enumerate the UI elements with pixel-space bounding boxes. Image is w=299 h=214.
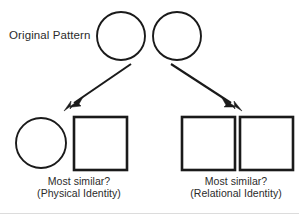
physical-identity-caption: Most similar? (Physical Identity) (14, 175, 144, 199)
choice-left-circle (16, 118, 66, 168)
arrow-to-right-choice-shaft (171, 64, 231, 103)
arrow-to-right-choice-head (222, 98, 242, 111)
relational-identity-caption-line-2: (Relational Identity) (172, 187, 299, 199)
original-pattern-label: Original Pattern (9, 28, 91, 42)
physical-identity-caption-line-2: (Physical Identity) (14, 187, 144, 199)
physical-identity-caption-line-1: Most similar? (14, 175, 144, 187)
arrow-to-left-choice (64, 64, 131, 111)
choice-right-square-a (182, 117, 235, 170)
arrow-to-left-choice-head (64, 97, 83, 111)
sample-circle-left (97, 12, 145, 60)
sample-circle-right (153, 12, 201, 60)
arrow-to-right-choice (171, 64, 242, 111)
choice-left-square (74, 117, 127, 170)
relational-identity-caption-line-1: Most similar? (172, 175, 299, 187)
relational-identity-figure: Original Pattern Most similar? (Physical… (0, 0, 299, 214)
relational-identity-caption: Most similar? (Relational Identity) (172, 175, 299, 199)
choice-right-square-b (240, 117, 293, 170)
